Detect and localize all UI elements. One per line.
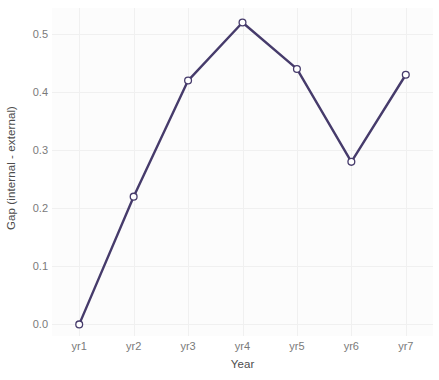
plot-panel xyxy=(52,8,433,336)
y-axis-tick-labels: 0.00.10.20.30.40.5 xyxy=(0,0,48,380)
data-point-marker xyxy=(402,71,409,78)
data-point-marker xyxy=(294,66,301,73)
line-chart: Gap (internal - external) 0.00.10.20.30.… xyxy=(0,0,439,380)
x-axis-tick-label: yr6 xyxy=(324,340,378,352)
y-axis-tick-label: 0.0 xyxy=(8,318,48,330)
y-axis-tick-label: 0.1 xyxy=(8,260,48,272)
x-axis-title: Year xyxy=(52,358,433,370)
data-series-gap xyxy=(52,8,433,336)
x-axis-tick-labels: yr1yr2yr3yr4yr5yr6yr7 xyxy=(52,340,433,356)
data-point-marker xyxy=(348,158,355,165)
data-point-marker xyxy=(239,19,246,26)
x-axis-tick-label: yr1 xyxy=(52,340,106,352)
y-axis-tick-label: 0.5 xyxy=(8,28,48,40)
y-axis-tick-label: 0.2 xyxy=(8,202,48,214)
data-point-marker xyxy=(76,321,83,328)
data-point-marker xyxy=(185,77,192,84)
y-axis-tick-label: 0.3 xyxy=(8,144,48,156)
x-axis-tick-label: yr7 xyxy=(379,340,433,352)
y-axis-tick-label: 0.4 xyxy=(8,86,48,98)
data-point-marker xyxy=(130,193,137,200)
x-axis-tick-label: yr4 xyxy=(216,340,270,352)
x-axis-tick-label: yr3 xyxy=(161,340,215,352)
x-axis-tick-label: yr2 xyxy=(107,340,161,352)
x-axis-tick-label: yr5 xyxy=(270,340,324,352)
series-line xyxy=(79,23,406,325)
